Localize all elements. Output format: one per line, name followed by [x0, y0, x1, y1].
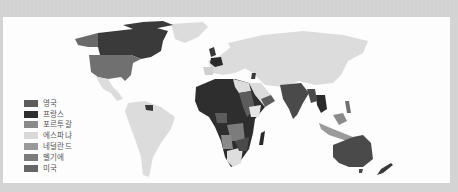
- region-indochina: [316, 95, 327, 113]
- region-india: [280, 83, 309, 119]
- region-philippines: [345, 101, 351, 113]
- region-borneo: [333, 113, 347, 125]
- region-mexico: [96, 77, 123, 101]
- legend-swatch: [24, 121, 38, 128]
- region-nigeria: [215, 113, 227, 123]
- region-greenland: [171, 22, 208, 43]
- region-levant: [251, 73, 256, 79]
- legend-label: 에스파냐: [43, 131, 72, 140]
- legend-swatch: [24, 132, 38, 139]
- region-ethiopia: [249, 105, 261, 117]
- legend-item-usa: 미국: [24, 163, 72, 174]
- region-indonesia: [319, 123, 353, 141]
- region-usa: [89, 55, 141, 81]
- legend: 영국 프랑스 포르투갈 에스파냐 네덜란드 벨기에 미국: [24, 98, 72, 174]
- legend-swatch: [24, 143, 38, 150]
- region-angola: [221, 135, 233, 149]
- legend-item-france: 프랑스: [24, 109, 72, 120]
- region-new-zealand: [377, 163, 393, 175]
- legend-swatch: [24, 111, 38, 118]
- legend-label: 네덜란드: [43, 142, 72, 151]
- region-south-america: [125, 101, 175, 177]
- legend-label: 영국: [43, 99, 57, 108]
- region-uk: [209, 47, 216, 57]
- legend-item-uk: 영국: [24, 98, 72, 109]
- world-map-panel: 영국 프랑스 포르투갈 에스파냐 네덜란드 벨기에 미국: [3, 17, 450, 183]
- frame-top: [0, 0, 458, 17]
- legend-swatch: [24, 154, 38, 161]
- region-iberia: [203, 67, 213, 75]
- region-canada: [98, 27, 168, 59]
- legend-label: 미국: [43, 164, 57, 173]
- region-asia: [228, 31, 368, 87]
- legend-swatch: [24, 165, 38, 172]
- legend-item-belgium: 벨기에: [24, 152, 72, 163]
- legend-swatch: [24, 100, 38, 107]
- legend-label: 프랑스: [43, 110, 65, 119]
- region-australia: [333, 135, 373, 167]
- legend-item-spain: 에스파냐: [24, 130, 72, 141]
- region-madagascar: [259, 131, 265, 145]
- legend-item-portugal: 포르투갈: [24, 120, 72, 131]
- region-alaska: [75, 33, 101, 47]
- legend-label: 벨기에: [43, 153, 65, 162]
- region-burma: [307, 89, 317, 103]
- region-arctic-islands: [123, 21, 173, 29]
- legend-item-netherlands: 네덜란드: [24, 141, 72, 152]
- legend-label: 포르투갈: [43, 120, 72, 129]
- region-tasmania: [359, 169, 363, 173]
